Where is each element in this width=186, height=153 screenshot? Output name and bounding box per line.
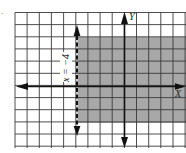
problem-marker: . — [1, 6, 3, 16]
boundary-label: x = −4 — [60, 54, 71, 83]
grid — [15, 13, 186, 149]
coordinate-plane: . x = −4 Y X — [0, 0, 186, 153]
x-axis-label: X — [174, 88, 182, 99]
y-axis-up-arrow-icon — [121, 12, 128, 24]
boundary-down-arrow-icon — [74, 126, 81, 136]
x-axis-left-arrow-icon — [16, 83, 28, 90]
boundary-up-arrow-icon — [74, 25, 81, 36]
